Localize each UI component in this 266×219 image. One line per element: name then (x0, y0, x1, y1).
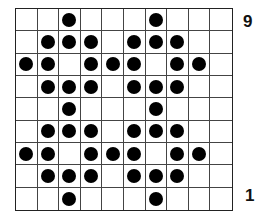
board-cell[interactable] (102, 9, 124, 31)
board-cell[interactable] (124, 143, 146, 165)
board-cell[interactable] (81, 143, 103, 165)
board-cell[interactable] (81, 31, 103, 53)
board-cell[interactable] (102, 165, 124, 187)
stone-dot (170, 35, 184, 49)
board-cell[interactable] (16, 143, 38, 165)
board-cell[interactable] (38, 76, 60, 98)
board-cell[interactable] (189, 165, 211, 187)
stone-dot (19, 147, 33, 161)
board-cell[interactable] (102, 98, 124, 120)
board-cell[interactable] (102, 76, 124, 98)
board-cell[interactable] (146, 143, 168, 165)
board-cell[interactable] (189, 9, 211, 31)
board-cell[interactable] (102, 188, 124, 210)
board-cell[interactable] (167, 76, 189, 98)
board-cell[interactable] (81, 121, 103, 143)
board-cell[interactable] (189, 31, 211, 53)
board-cell[interactable] (146, 9, 168, 31)
board-cell[interactable] (16, 98, 38, 120)
board-cell[interactable] (59, 143, 81, 165)
board-cell[interactable] (210, 9, 232, 31)
board-cell[interactable] (38, 121, 60, 143)
board-cell[interactable] (189, 98, 211, 120)
board-cell[interactable] (146, 165, 168, 187)
board-cell[interactable] (59, 188, 81, 210)
board-cell[interactable] (102, 54, 124, 76)
board-cell[interactable] (210, 76, 232, 98)
board-cell[interactable] (167, 188, 189, 210)
board-cell[interactable] (38, 143, 60, 165)
board-cell[interactable] (167, 98, 189, 120)
board-cell[interactable] (124, 31, 146, 53)
board-cell[interactable] (167, 54, 189, 76)
board-cell[interactable] (38, 9, 60, 31)
board-cell[interactable] (146, 98, 168, 120)
stone-dot (170, 80, 184, 94)
board-cell[interactable] (59, 98, 81, 120)
board-cell[interactable] (189, 76, 211, 98)
board-cell[interactable] (167, 121, 189, 143)
board-cell[interactable] (59, 54, 81, 76)
board-cell[interactable] (167, 165, 189, 187)
board-cell[interactable] (16, 76, 38, 98)
board-cell[interactable] (146, 188, 168, 210)
board-cell[interactable] (124, 76, 146, 98)
stone-dot (19, 57, 33, 71)
board-cell[interactable] (38, 98, 60, 120)
board-cell[interactable] (16, 31, 38, 53)
board-cell[interactable] (146, 76, 168, 98)
board-cell[interactable] (59, 31, 81, 53)
board-cell[interactable] (210, 31, 232, 53)
board-cell[interactable] (189, 54, 211, 76)
board-cell[interactable] (124, 188, 146, 210)
board-cell[interactable] (81, 9, 103, 31)
board-cell[interactable] (124, 9, 146, 31)
board-cell[interactable] (59, 9, 81, 31)
board-cell[interactable] (124, 121, 146, 143)
board-cell[interactable] (16, 165, 38, 187)
stone-dot (149, 102, 163, 116)
board-cell[interactable] (189, 121, 211, 143)
board-cell[interactable] (189, 143, 211, 165)
board-cell[interactable] (210, 143, 232, 165)
stone-dot (149, 192, 163, 206)
stone-dot (41, 124, 55, 138)
board-cell[interactable] (210, 165, 232, 187)
stone-dot (84, 124, 98, 138)
board-cell[interactable] (167, 31, 189, 53)
board-cell[interactable] (16, 188, 38, 210)
board-cell[interactable] (102, 143, 124, 165)
board-cell[interactable] (81, 165, 103, 187)
board-cell[interactable] (38, 165, 60, 187)
board-cell[interactable] (38, 188, 60, 210)
board-cell[interactable] (38, 31, 60, 53)
board-cell[interactable] (210, 98, 232, 120)
board-cell[interactable] (102, 31, 124, 53)
board-cell[interactable] (146, 121, 168, 143)
board-cell[interactable] (210, 121, 232, 143)
board-cell[interactable] (16, 121, 38, 143)
board-cell[interactable] (146, 54, 168, 76)
board-cell[interactable] (81, 188, 103, 210)
board-cell[interactable] (102, 121, 124, 143)
board-cell[interactable] (59, 76, 81, 98)
board-cell[interactable] (124, 98, 146, 120)
board-cell[interactable] (210, 54, 232, 76)
board-cell[interactable] (16, 54, 38, 76)
board-cell[interactable] (59, 165, 81, 187)
board-cell[interactable] (38, 54, 60, 76)
board-cell[interactable] (81, 98, 103, 120)
board-cell[interactable] (59, 121, 81, 143)
stone-dot (149, 13, 163, 27)
board-cell[interactable] (16, 9, 38, 31)
board-cell[interactable] (189, 188, 211, 210)
board-cell[interactable] (146, 31, 168, 53)
board-cell[interactable] (167, 9, 189, 31)
board-cell[interactable] (81, 54, 103, 76)
board-cell[interactable] (124, 54, 146, 76)
board-cell[interactable] (210, 188, 232, 210)
board-cell[interactable] (124, 165, 146, 187)
stone-dot (149, 35, 163, 49)
board-cell[interactable] (81, 76, 103, 98)
board-cell[interactable] (167, 143, 189, 165)
